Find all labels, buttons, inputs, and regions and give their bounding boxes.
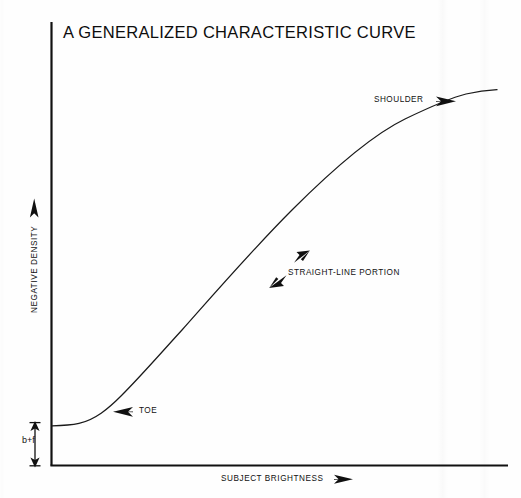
page-title: A GENERALIZED CHARACTERISTIC CURVE [63, 23, 416, 42]
y-axis-label: NEGATIVE DENSITY [30, 226, 39, 313]
y-axis-arrow-icon [30, 199, 39, 218]
chart-figure: A GENERALIZED CHARACTERISTIC CURVE SHOUL… [0, 0, 521, 498]
annotation-toe-label: TOE [139, 406, 157, 415]
annotation-straight-line-label: STRAIGHT-LINE PORTION [288, 268, 400, 277]
plot-canvas [0, 0, 521, 498]
annotation-base-fog-label: b+f [22, 435, 35, 445]
x-axis-label: SUBJECT BRIGHTNESS [221, 474, 324, 483]
characteristic-curve [52, 90, 497, 426]
straight-line-upper-arrow-icon [294, 251, 310, 263]
straight-line-lower-arrow-icon [269, 275, 287, 288]
toe-arrow-icon [113, 407, 133, 417]
annotation-shoulder-label: SHOULDER [374, 95, 424, 104]
x-axis-arrow-icon [334, 475, 353, 484]
